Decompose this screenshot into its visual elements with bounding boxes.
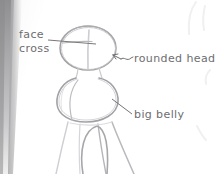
label-face: face (19, 29, 44, 40)
face-cross-vertical-icon (88, 30, 89, 69)
label-cross: cross (19, 43, 50, 54)
sketch-photo: face cross rounded head big belly (0, 0, 215, 174)
pencil-drawing (0, 0, 215, 174)
legs-skirt-icon (56, 122, 134, 174)
label-big-belly: big belly (134, 109, 185, 120)
rounded-head-leader-line (113, 54, 133, 59)
leg-gap-arch-icon (82, 126, 108, 174)
label-rounded-head: rounded head (134, 53, 215, 64)
belly-mass-icon (57, 78, 118, 122)
belly-inner-contour-icon (70, 80, 78, 120)
neighbor-sketch-bleed-icon (189, 2, 210, 140)
